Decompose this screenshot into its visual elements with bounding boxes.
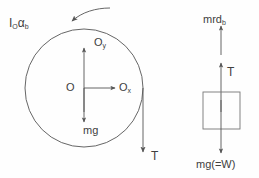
- reaction-y-label: Oy: [94, 37, 106, 48]
- block-tension-label: T: [227, 66, 234, 78]
- angular-acceleration-arc-arrow: [72, 8, 110, 21]
- hanging-block-rect: [203, 92, 240, 129]
- figure-canvas: IOαb Oy O Ox mg T mrdb T mg(=W): [0, 0, 259, 178]
- block-weight-label: mg(=W): [196, 159, 235, 170]
- pulley-tension-label: T: [151, 150, 158, 162]
- pulley-weight-label: mg: [83, 125, 98, 136]
- pulley-center-label: O: [66, 82, 75, 93]
- inertia-torque-label: IOαb: [9, 17, 29, 29]
- block-inertia-label: mrdb: [203, 14, 226, 25]
- reaction-x-label: Ox: [119, 82, 131, 93]
